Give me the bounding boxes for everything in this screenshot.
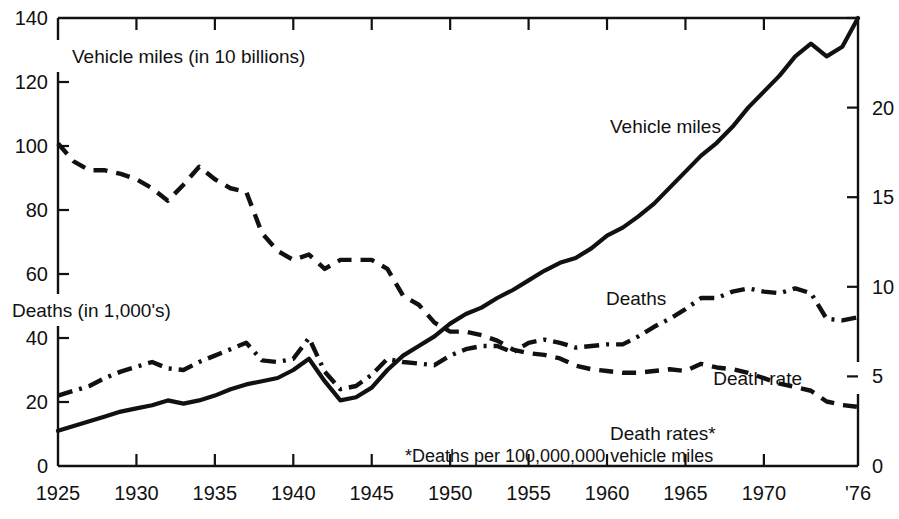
y-axis-tick-label: 100 [15,135,48,157]
x-axis-tick-label: 1925 [36,482,81,504]
y-axis-tick-label: 20 [26,391,48,413]
y2-axis-tick-label: 15 [872,186,894,208]
left-axis-caption-vehicle-miles: Vehicle miles (in 10 billions) [72,46,305,67]
chart-footnote: *Deaths per 100,000,000 vehicle miles [405,446,713,466]
y2-axis-tick-label: 0 [872,455,883,477]
y2-axis-tick-label: 5 [872,365,883,387]
traffic-safety-chart: 0204060801001201401925193019351940194519… [0,0,899,519]
y-axis-tick-label: 60 [26,263,48,285]
x-axis-tick-label: 1970 [742,482,787,504]
x-axis-tick-label: 1945 [349,482,394,504]
x-axis-tick-label: 1950 [428,482,473,504]
y-axis-tick-label: 40 [26,327,48,349]
y-axis-tick-label: 120 [15,71,48,93]
y-axis-tick-label: 140 [15,7,48,29]
y2-axis-tick-label: 10 [872,276,894,298]
y-axis-tick-label: 80 [26,199,48,221]
x-axis-tick-label: 1930 [114,482,159,504]
series-label-deaths: Deaths [606,288,666,309]
series-label-vehicle-miles: Vehicle miles [610,116,721,137]
x-axis-tick-label: 1965 [663,482,708,504]
right-axis-caption-death-rate: Death rate [713,368,802,389]
left-axis-caption-deaths: Deaths (in 1,000's) [12,300,171,321]
x-axis-tick-label: 1960 [585,482,630,504]
y-axis-tick-label: 0 [37,455,48,477]
y2-axis-tick-label: 20 [872,97,894,119]
x-axis-tick-label: 1940 [271,482,316,504]
x-axis-tick-label: '76 [845,482,871,504]
series-label-death-rates: Death rates* [610,423,716,444]
chart-canvas: 0204060801001201401925193019351940194519… [0,0,899,519]
x-axis-tick-label: 1955 [506,482,551,504]
x-axis-tick-label: 1935 [193,482,238,504]
